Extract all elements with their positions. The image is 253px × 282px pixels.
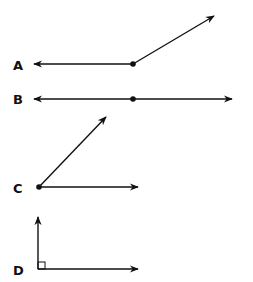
figure-c: C [13, 117, 138, 196]
point-b [130, 96, 136, 102]
angles-diagram: A B C D [0, 0, 253, 282]
figure-d: D [13, 217, 138, 278]
vertex-a [130, 61, 136, 67]
vertex-c [36, 184, 42, 190]
right-angle-marker [38, 262, 45, 269]
label-d: D [13, 263, 24, 278]
label-a: A [13, 58, 23, 73]
figure-b: B [13, 92, 232, 107]
ray-a-up-right [133, 16, 214, 64]
figure-a: A [13, 16, 214, 73]
label-b: B [13, 92, 23, 107]
ray-c-up [39, 117, 106, 187]
label-c: C [13, 181, 23, 196]
